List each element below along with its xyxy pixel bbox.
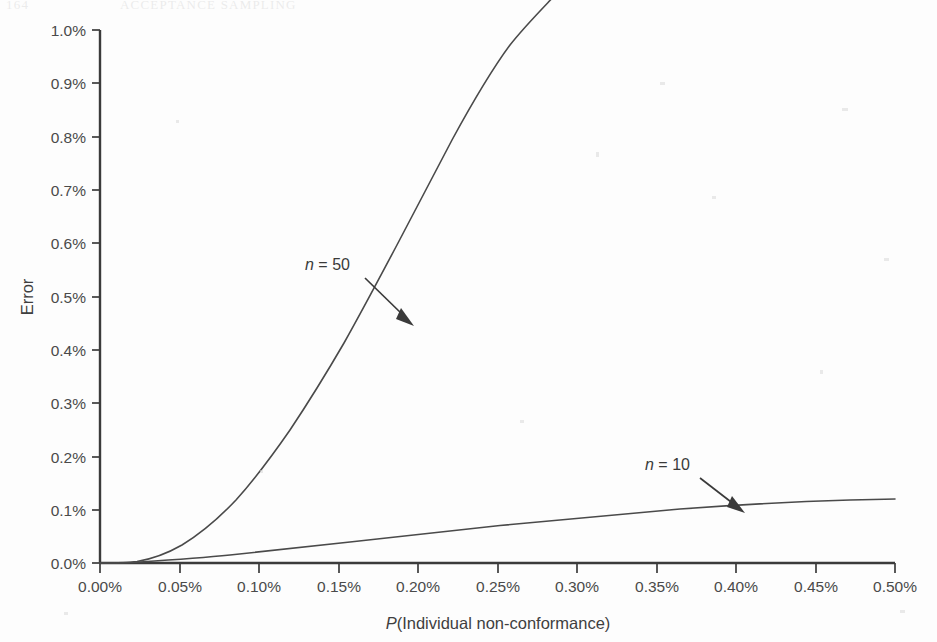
x-tick-label: 0.10% — [237, 578, 281, 595]
x-tick-label: 0.30% — [555, 578, 599, 595]
y-tick-label: 0.3% — [51, 395, 87, 412]
y-tick-label: 0.6% — [51, 235, 87, 252]
annotation-n10: n = 10 — [645, 456, 745, 513]
x-tick-label: 0.20% — [396, 578, 440, 595]
series-line-n50 — [100, 0, 558, 563]
annotation-n10-label: n = 10 — [645, 456, 690, 473]
figure-canvas: 164 ACCEPTANCE SAMPLING 1.0% 0.9% 0.8% 0… — [0, 0, 937, 642]
x-axis: 0.00% 0.05% 0.10% 0.15% 0.20% 0.25% 0.30… — [78, 563, 917, 632]
series-line-n10 — [100, 499, 895, 563]
y-tick-label: 0.4% — [51, 342, 87, 359]
annotation-n10-italic-prefix: n — [645, 456, 654, 473]
y-tick-label: 0.7% — [51, 182, 87, 199]
y-tick-label: 1.0% — [51, 22, 87, 39]
x-axis-title-rest: (Individual non-conformance) — [397, 614, 611, 632]
error-vs-nonconformance-chart: 1.0% 0.9% 0.8% 0.7% 0.6% 0.5% 0.4% 0.3% … — [0, 0, 937, 642]
y-tick-label: 0.9% — [51, 75, 87, 92]
y-tick-label: 0.8% — [51, 129, 87, 146]
x-tick-label: 0.05% — [158, 578, 202, 595]
annotation-n50-rest: = 50 — [314, 256, 350, 273]
annotation-n50-label: n = 50 — [305, 256, 350, 273]
annotation-n50-italic-prefix: n — [305, 256, 314, 273]
x-tick-label: 0.40% — [714, 578, 758, 595]
x-tick-label: 0.35% — [635, 578, 679, 595]
y-tick-label: 0.2% — [51, 449, 87, 466]
annotation-n50-arrow-line — [365, 278, 404, 316]
x-axis-title-italic-prefix: P — [386, 614, 397, 632]
x-axis-title: P(Individual non-conformance) — [386, 614, 611, 632]
y-tick-label: 0.5% — [51, 289, 87, 306]
y-tick-label: 0.1% — [51, 502, 87, 519]
x-tick-label: 0.50% — [873, 578, 917, 595]
x-tick-label: 0.25% — [476, 578, 520, 595]
x-tick-label: 0.45% — [794, 578, 838, 595]
y-tick-label: 0.0% — [51, 555, 87, 572]
annotation-n10-rest: = 10 — [654, 456, 690, 473]
x-tick-label: 0.15% — [317, 578, 361, 595]
y-axis: 1.0% 0.9% 0.8% 0.7% 0.6% 0.5% 0.4% 0.3% … — [18, 22, 100, 572]
y-axis-title: Error — [18, 278, 36, 315]
x-tick-label: 0.00% — [78, 578, 122, 595]
